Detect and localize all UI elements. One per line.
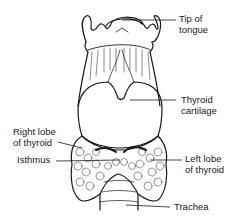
thyroid-cartilage [78,82,162,148]
label-left-lobe: Left lobe of thyroid [185,154,224,175]
label-isthmus: Isthmus [17,155,50,166]
label-trachea: Trachea [174,202,209,213]
label-line: Trachea [174,202,209,213]
label-right-lobe: Right lobe of thyroid [13,127,56,148]
trachea [100,194,138,210]
label-line: Thyroid [181,95,217,106]
label-line: Tip of [179,14,208,25]
label-line: Left lobe [185,154,224,165]
label-thyroid-cartilage: Thyroid cartilage [181,95,217,116]
label-line: cartilage [181,106,217,117]
label-tip-of-tongue: Tip of tongue [179,14,208,35]
label-line: of thyroid [13,138,56,149]
label-line: Right lobe [13,127,56,138]
label-line: tongue [179,25,208,36]
label-line: of thyroid [185,165,224,176]
thyroid-diagram: Tip of tongue Thyroid cartilage Right lo… [0,0,236,224]
thyroid-gland [71,136,167,201]
label-line: Isthmus [17,155,50,166]
